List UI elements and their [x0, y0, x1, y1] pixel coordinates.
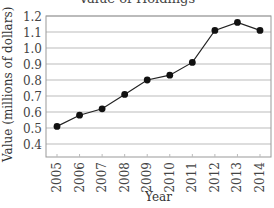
y-tick-label: 1.2 [23, 10, 42, 24]
y-tick-label: 0.9 [23, 58, 42, 72]
line-chart: Value of Holdings Value (millions of dol… [0, 0, 274, 208]
y-tick-label: 1.0 [23, 42, 42, 56]
data-point [257, 27, 264, 34]
x-tick-label: 2014 [253, 162, 267, 193]
data-point [166, 72, 173, 79]
data-point [234, 19, 241, 26]
x-tick-label: 2009 [140, 162, 154, 193]
x-tick-label: 2013 [230, 162, 244, 193]
data-point [144, 77, 151, 84]
data-point [76, 112, 83, 119]
data-line [57, 22, 260, 126]
plot-area: 1.21.11.00.90.80.70.60.50.42005200620072… [0, 0, 274, 208]
y-tick-label: 0.8 [23, 74, 42, 88]
x-tick-label: 2008 [118, 162, 132, 193]
x-tick-label: 2007 [95, 162, 109, 193]
x-tick-label: 2012 [208, 162, 222, 193]
y-tick-label: 0.6 [23, 106, 42, 120]
y-tick-label: 0.5 [23, 122, 42, 136]
data-point [99, 105, 106, 112]
x-tick-label: 2010 [163, 162, 177, 193]
data-point [121, 91, 128, 98]
plot-frame [46, 16, 271, 157]
x-tick-label: 2006 [73, 162, 87, 193]
data-point [189, 59, 196, 66]
data-point [211, 27, 218, 34]
data-point [54, 123, 61, 130]
y-tick-label: 0.4 [23, 138, 42, 152]
x-tick-label: 2005 [50, 162, 64, 193]
x-tick-label: 2011 [185, 162, 199, 193]
y-tick-label: 1.1 [23, 26, 42, 40]
y-tick-label: 0.7 [23, 90, 42, 104]
